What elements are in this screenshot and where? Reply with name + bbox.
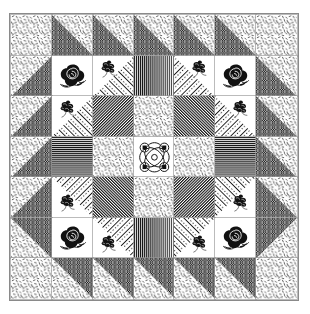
cell-r3c3 [93, 96, 134, 137]
cell-r1c2 [52, 15, 93, 56]
cell-r6c7 [256, 218, 297, 259]
cell-r2c2 [52, 56, 93, 97]
cell-r2c6 [215, 56, 256, 97]
cell-r5c3 [93, 177, 134, 218]
cell-r7c3 [93, 258, 134, 299]
cell-r2c4 [134, 56, 175, 97]
cell-r3c1 [11, 96, 52, 137]
cell-r1c7 [256, 15, 297, 56]
cell-r2c5 [174, 56, 215, 97]
quilt-image [0, 0, 310, 314]
cell-r1c4 [134, 15, 175, 56]
cell-r7c7 [256, 258, 297, 299]
cell-r6c1 [11, 218, 52, 259]
cell-r1c5 [174, 15, 215, 56]
cell-r5c1 [11, 177, 52, 218]
cell-r4c6 [215, 137, 256, 178]
cell-r5c2 [52, 177, 93, 218]
cell-r2c3 [93, 56, 134, 97]
cell-r7c5 [174, 258, 215, 299]
cell-r7c1 [11, 258, 52, 299]
quilt-grid [11, 15, 297, 299]
cell-r5c5 [174, 177, 215, 218]
cell-r2c1 [11, 56, 52, 97]
cell-r6c5 [174, 218, 215, 259]
cell-r5c7 [256, 177, 297, 218]
quilt-border [9, 13, 299, 301]
cell-r6c3 [93, 218, 134, 259]
cell-r5c6 [215, 177, 256, 218]
cell-r3c6 [215, 96, 256, 137]
cell-r1c1 [11, 15, 52, 56]
cell-r4c1 [11, 137, 52, 178]
cell-r7c4 [134, 258, 175, 299]
cell-r3c5 [174, 96, 215, 137]
cell-r4c7 [256, 137, 297, 178]
cell-r4c3 [93, 137, 134, 178]
cell-r4c5 [174, 137, 215, 178]
cell-r7c6 [215, 258, 256, 299]
cell-r2c7 [256, 56, 297, 97]
cell-r3c7 [256, 96, 297, 137]
cell-r6c4 [134, 218, 175, 259]
cell-r3c2 [52, 96, 93, 137]
cell-r1c6 [215, 15, 256, 56]
cell-r1c3 [93, 15, 134, 56]
cell-r3c4 [134, 96, 175, 137]
cell-r5c4 [134, 177, 175, 218]
cell-r4c2 [52, 137, 93, 178]
cell-r6c6 [215, 218, 256, 259]
cell-r7c2 [52, 258, 93, 299]
cell-r4c4 [134, 137, 175, 178]
cell-r6c2 [52, 218, 93, 259]
